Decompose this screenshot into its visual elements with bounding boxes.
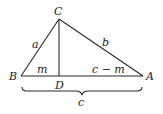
triangle-diagram: C B A D a b m c − m c <box>0 0 163 114</box>
vertex-label-b: B <box>8 70 17 83</box>
vertex-label-d: D <box>54 79 64 92</box>
vertex-label-c: C <box>54 5 63 18</box>
segment-label-m: m <box>37 63 47 76</box>
segment-label-c-minus-m: c − m <box>92 63 125 76</box>
side-label-a: a <box>32 38 39 51</box>
side-label-b: b <box>102 36 109 49</box>
side-label-c: c <box>78 96 84 109</box>
vertex-label-a: A <box>145 70 154 83</box>
brace-c <box>22 87 142 95</box>
